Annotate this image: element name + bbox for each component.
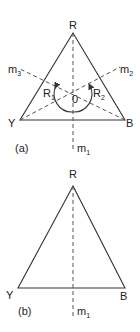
rotation-label-r1: R1 [43,87,55,101]
vertex-label-b-b: B [120,290,127,302]
triangle-b [18,186,125,288]
caption-a: (a) [15,142,28,154]
mirror-label-m1-b: m1 [77,305,90,319]
vertex-label-b-a: B [126,117,133,129]
mirror-label-m1-a: m1 [77,142,90,156]
mirror-label-m3: m3 [8,63,21,77]
vertex-label-y-b: Y [6,289,14,301]
figure-b: R Y B m1 (b) [6,168,127,319]
vertex-label-r-b: R [69,168,77,180]
rotation-arc-r1 [54,86,73,112]
rotation-label-r2: R2 [93,87,105,101]
vertex-label-y-a: Y [8,117,16,129]
vertex-label-r-a: R [69,19,77,31]
center-label: 0 [72,93,78,105]
figure-a: R Y B m3 m2 m1 R1 R2 0 (a) [8,19,133,156]
symmetry-diagram: R Y B m3 m2 m1 R1 R2 0 (a) R Y B m1 (b) [0,0,140,332]
mirror-label-m2: m2 [120,63,133,77]
caption-b: (b) [18,305,31,317]
